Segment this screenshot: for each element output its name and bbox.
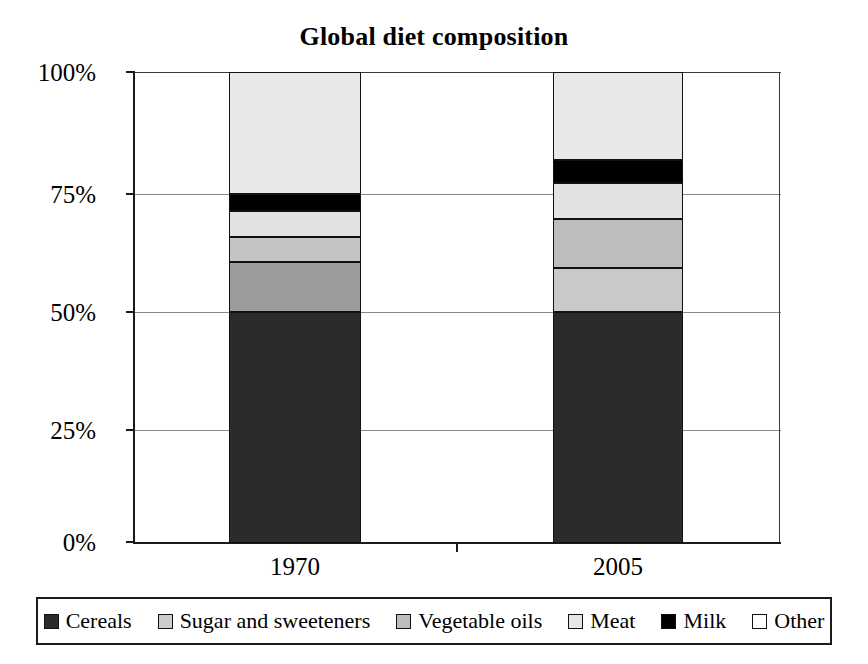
legend-label-other: Other [774, 608, 824, 634]
legend-item-sugar-and-sweeteners[interactable]: Sugar and sweeteners [158, 608, 371, 634]
bar-segment-milk-2005[interactable] [553, 160, 683, 183]
bar-segment-vegetable-oils-1970[interactable] [229, 237, 361, 262]
legend-label-milk: Milk [683, 608, 726, 634]
chart-title: Global diet composition [0, 22, 868, 52]
x-axis-label-2005: 2005 [558, 553, 678, 581]
legend-swatch-icon-vegetable-oils [396, 614, 411, 629]
y-axis-label-50: 50% [0, 300, 96, 325]
x-axis-label-1970: 1970 [235, 553, 355, 581]
bar-segment-other-1970[interactable] [229, 72, 361, 194]
legend-label-vegetable-oils: Vegetable oils [418, 608, 542, 634]
legend-swatch-icon-meat [568, 614, 583, 629]
legend-item-meat[interactable]: Meat [568, 608, 635, 634]
bar-segment-milk-1970[interactable] [229, 194, 361, 211]
legend: Cereals Sugar and sweeteners Vegetable o… [36, 597, 832, 645]
y-axis-label-0: 0% [0, 530, 96, 555]
bar-segment-sugar-1970[interactable] [229, 262, 361, 312]
y-tick-mark-100 [126, 71, 135, 73]
x-tick-mark-middle [456, 543, 458, 552]
y-tick-mark-50 [126, 311, 135, 313]
y-tick-mark-0 [126, 541, 135, 543]
bar-segment-sugar-2005[interactable] [553, 268, 683, 312]
chart-container: Global diet composition 100% 75% 50% 25%… [0, 0, 868, 664]
bar-1970[interactable] [229, 72, 361, 543]
bar-segment-meat-2005[interactable] [553, 183, 683, 219]
bar-segment-meat-1970[interactable] [229, 211, 361, 237]
y-tick-mark-75 [126, 193, 135, 195]
legend-label-meat: Meat [590, 608, 635, 634]
legend-label-cereals: Cereals [66, 608, 132, 634]
y-axis-label-25: 25% [0, 418, 96, 443]
bar-segment-cereals-1970[interactable] [229, 312, 361, 543]
bar-segment-cereals-2005[interactable] [553, 312, 683, 543]
legend-item-vegetable-oils[interactable]: Vegetable oils [396, 608, 542, 634]
legend-swatch-icon-milk [661, 614, 676, 629]
y-axis-label-75: 75% [0, 182, 96, 207]
legend-item-other[interactable]: Other [752, 608, 824, 634]
bar-segment-other-2005[interactable] [553, 72, 683, 160]
legend-item-cereals[interactable]: Cereals [44, 608, 132, 634]
legend-swatch-icon-other [752, 614, 767, 629]
y-axis-label-100: 100% [0, 60, 96, 85]
legend-item-milk[interactable]: Milk [661, 608, 726, 634]
legend-swatch-icon-cereals [44, 614, 59, 629]
legend-label-sugar-and-sweeteners: Sugar and sweeteners [180, 608, 371, 634]
bar-segment-vegetable-oils-2005[interactable] [553, 219, 683, 268]
bar-2005[interactable] [553, 72, 683, 543]
y-tick-mark-25 [126, 429, 135, 431]
legend-swatch-icon-sugar [158, 614, 173, 629]
